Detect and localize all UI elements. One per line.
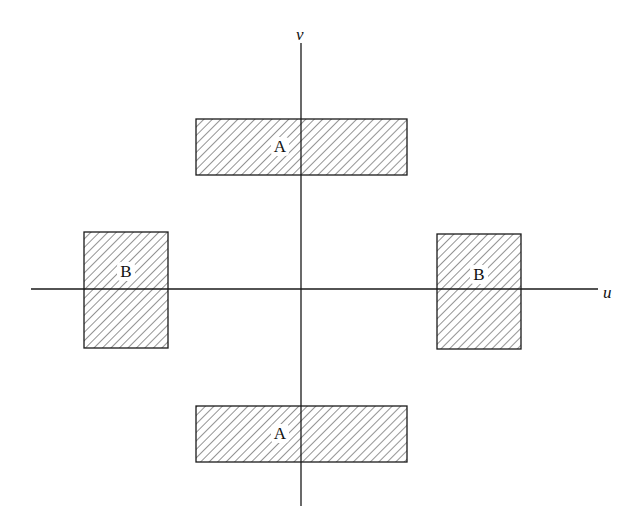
region-b-right: B xyxy=(437,234,521,349)
region-label: B xyxy=(120,262,131,281)
region-b-left: B xyxy=(84,232,168,348)
hatched-rectangle xyxy=(84,232,168,348)
region-label: A xyxy=(274,424,287,443)
hatched-regions: AABB xyxy=(84,119,521,462)
frequency-plane-diagram: AABB u v xyxy=(0,0,638,527)
region-label: B xyxy=(473,265,484,284)
v-axis-label: v xyxy=(296,25,304,44)
u-axis-label: u xyxy=(603,283,612,302)
hatched-rectangle xyxy=(437,234,521,349)
region-label: A xyxy=(274,137,287,156)
